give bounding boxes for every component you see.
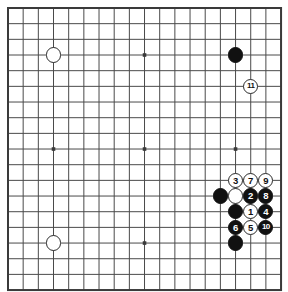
star-point-middle-left <box>52 147 56 151</box>
black-stone-bottom[interactable] <box>228 235 243 250</box>
white-move-3[interactable]: 3 <box>228 173 243 188</box>
black-move-6[interactable]: 6 <box>228 220 243 235</box>
white-stone-upper-left[interactable] <box>46 47 61 62</box>
white-move-9-label: 9 <box>263 176 268 186</box>
white-move-7-label: 7 <box>248 176 253 186</box>
black-stone-upper-right[interactable] <box>228 47 243 62</box>
white-move-11-label: 11 <box>247 82 254 90</box>
go-board-grid[interactable] <box>0 0 288 292</box>
white-move-3-label: 3 <box>233 176 238 186</box>
go-board-diagram: 1137928146510 <box>0 0 288 292</box>
white-move-1-label: 1 <box>248 207 253 217</box>
black-move-8[interactable]: 8 <box>258 188 273 203</box>
black-move-2[interactable]: 2 <box>243 188 258 203</box>
white-stone-lower-left[interactable] <box>46 235 61 250</box>
black-stone-left-wall[interactable] <box>213 188 228 203</box>
black-move-6-label: 6 <box>233 223 238 233</box>
black-move-10-label: 10 <box>262 223 270 231</box>
star-point-center <box>143 147 147 151</box>
white-move-5-label: 5 <box>248 223 253 233</box>
star-point-top-center <box>143 53 147 57</box>
star-point-middle-right <box>234 147 238 151</box>
white-stone-captured-shape[interactable] <box>228 188 243 203</box>
black-move-2-label: 2 <box>248 191 253 201</box>
black-move-8-label: 8 <box>263 191 268 201</box>
star-point-bottom-center <box>143 241 147 245</box>
black-move-4-label: 4 <box>263 207 268 217</box>
